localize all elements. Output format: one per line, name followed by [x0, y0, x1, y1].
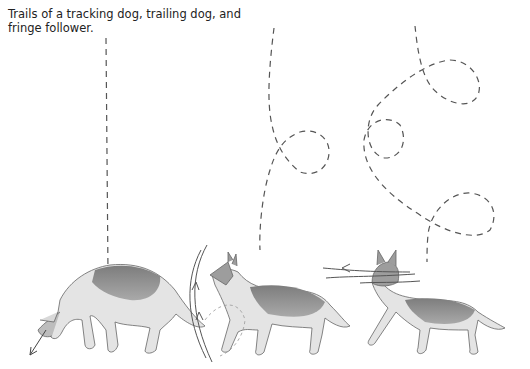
fringe-trail [364, 26, 494, 262]
sniff-arrow [30, 330, 46, 355]
trailing-trail [260, 28, 329, 250]
sweep-line-2 [326, 274, 415, 278]
scan-arc-outer [195, 245, 212, 362]
trailing-dog [210, 252, 350, 355]
dog-trails-illustration [0, 0, 530, 369]
tracking-dog [38, 264, 205, 353]
tracking-trail [106, 38, 108, 272]
fringe-dog [368, 250, 505, 354]
